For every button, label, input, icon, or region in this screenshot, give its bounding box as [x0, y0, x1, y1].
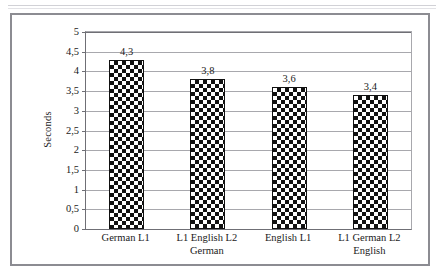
- x-axis-category-label: German L1: [85, 231, 166, 244]
- x-axis-category-label: English L1: [248, 231, 329, 244]
- bar: [272, 87, 307, 229]
- chart-plot-wrapper: Seconds 00,511,522,533,544,55 4,33,83,63…: [12, 15, 432, 268]
- bar-value-label: 3,4: [364, 82, 377, 93]
- x-axis-category-label: L1 English L2German: [166, 231, 247, 257]
- page-top-rule-secondary: [8, 8, 436, 9]
- y-axis-tick-label: 0,5: [66, 204, 79, 215]
- y-axis-tick: [82, 229, 86, 230]
- category-label-line2: English: [329, 244, 410, 257]
- bar-value-label: 3,6: [283, 74, 296, 85]
- page-top-rule: [8, 5, 436, 6]
- category-label-line1: German L1: [102, 232, 150, 243]
- category-label-line1: L1 English L2: [177, 232, 238, 243]
- bar-value-label: 4,3: [120, 46, 133, 57]
- chart-figure-frame: Seconds 00,511,522,533,544,55 4,33,83,63…: [10, 13, 430, 266]
- category-label-line2: German: [166, 244, 247, 257]
- chart-plot-area: 00,511,522,533,544,55 4,33,83,63,4: [85, 31, 412, 230]
- y-axis-tick-label: 4: [74, 66, 79, 77]
- y-axis-title: Seconds: [42, 31, 56, 228]
- bar-value-label: 3,8: [201, 66, 214, 77]
- y-axis-tick-label: 2: [74, 145, 79, 156]
- bar: [353, 95, 388, 229]
- y-axis-tick-label: 3: [74, 106, 79, 117]
- y-axis-tick-label: 2,5: [66, 125, 79, 136]
- y-axis-tick-label: 1,5: [66, 165, 79, 176]
- category-label-layer: German L1L1 English L2GermanEnglish L1L1…: [85, 231, 410, 267]
- y-axis-tick-label: 1: [74, 184, 79, 195]
- y-axis-tick-label: 5: [74, 27, 79, 38]
- bar: [109, 60, 144, 229]
- bar: [190, 79, 225, 229]
- gridline: [86, 229, 411, 230]
- y-axis-tick-label: 4,5: [66, 46, 79, 57]
- x-axis-category-label: L1 German L2English: [329, 231, 410, 257]
- y-axis-tick-label: 3,5: [66, 86, 79, 97]
- bars-layer: 4,33,83,63,4: [86, 32, 411, 229]
- category-label-line1: L1 German L2: [338, 232, 400, 243]
- y-axis-tick-label: 0: [74, 224, 79, 235]
- category-label-line1: English L1: [265, 232, 311, 243]
